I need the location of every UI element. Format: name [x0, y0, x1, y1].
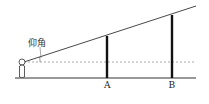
- line-of-sight: [24, 6, 196, 62]
- observer-head: [19, 59, 25, 65]
- angle-arc: [40, 57, 41, 62]
- point-b-label: B: [169, 80, 176, 90]
- elevation-angle-diagram: 仰角 A B: [0, 0, 209, 104]
- elevation-angle-label: 仰角: [28, 37, 46, 48]
- point-a-label: A: [103, 80, 111, 90]
- observer-body: [20, 65, 25, 78]
- observer-figure: [19, 59, 25, 78]
